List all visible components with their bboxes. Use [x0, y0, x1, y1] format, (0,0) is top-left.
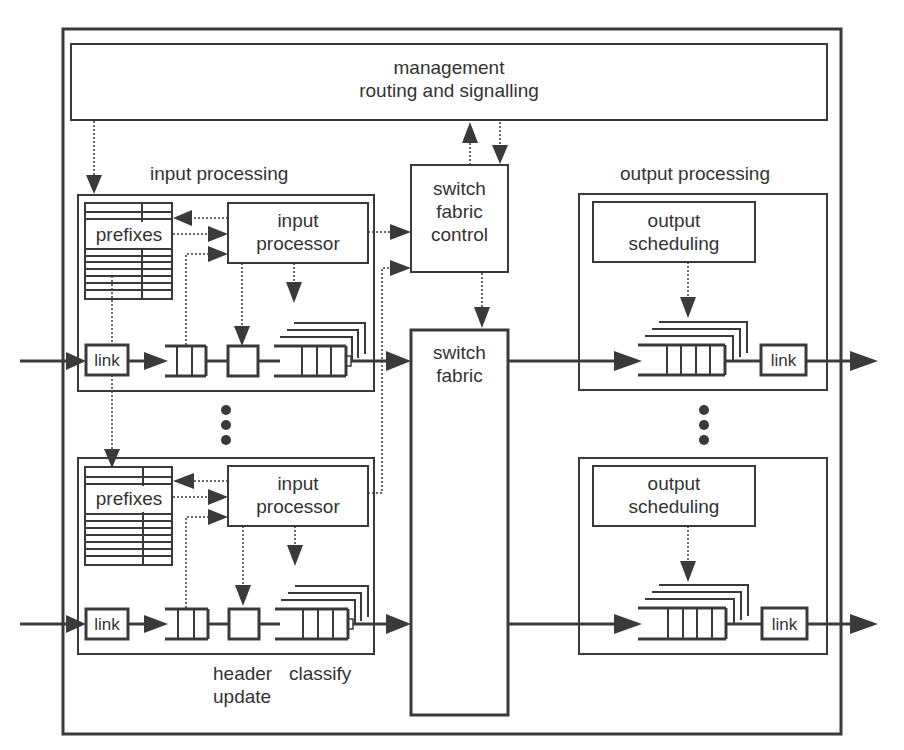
input-processor-label-2: input processor: [228, 472, 368, 518]
sfc-line2: fabric: [411, 200, 508, 223]
prefixes-label: prefixes: [88, 223, 170, 246]
sched-line2: scheduling: [593, 232, 755, 255]
input-processing-label: input processing: [150, 162, 288, 185]
management-label: management routing and signalling: [71, 56, 827, 102]
switch-fabric-label: switch fabric: [411, 341, 508, 387]
arrow-up-icon: [462, 122, 478, 143]
management-subtitle: routing and signalling: [71, 79, 827, 102]
sfc-line3: control: [411, 223, 508, 246]
output-processing-label: output processing: [620, 162, 770, 185]
sched-line1: output: [593, 209, 755, 232]
input-link-label-2: link: [86, 613, 128, 636]
prefixes-label-2: prefixes: [88, 487, 170, 510]
processor-line1: input: [228, 209, 368, 232]
arrow-down-icon: [86, 175, 102, 194]
output-link-label-2: link: [762, 613, 807, 636]
header-line1: header: [213, 662, 272, 685]
processor-line1: input: [228, 472, 368, 495]
output-link-label: link: [761, 349, 806, 372]
output-scheduling-label-2: output scheduling: [593, 472, 755, 518]
arrow-down-icon: [492, 145, 508, 164]
input-processor-label: input processor: [228, 209, 368, 255]
header-line2: update: [213, 685, 272, 708]
header-update-label: header update: [213, 662, 272, 708]
switch-fabric-box: [411, 330, 508, 715]
sched-line1: output: [593, 472, 755, 495]
sfc-line1: switch: [411, 177, 508, 200]
input-link-label: link: [86, 349, 128, 372]
switch-fabric-control-label: switch fabric control: [411, 177, 508, 246]
sf-line2: fabric: [411, 364, 508, 387]
classify-label: classify: [289, 662, 351, 685]
processor-line2: processor: [228, 232, 368, 255]
ellipsis-dot: [221, 405, 231, 415]
processor-line2: processor: [228, 495, 368, 518]
sched-line2: scheduling: [593, 495, 755, 518]
sf-line1: switch: [411, 341, 508, 364]
management-title: management: [71, 56, 827, 79]
output-scheduling-label: output scheduling: [593, 209, 755, 255]
